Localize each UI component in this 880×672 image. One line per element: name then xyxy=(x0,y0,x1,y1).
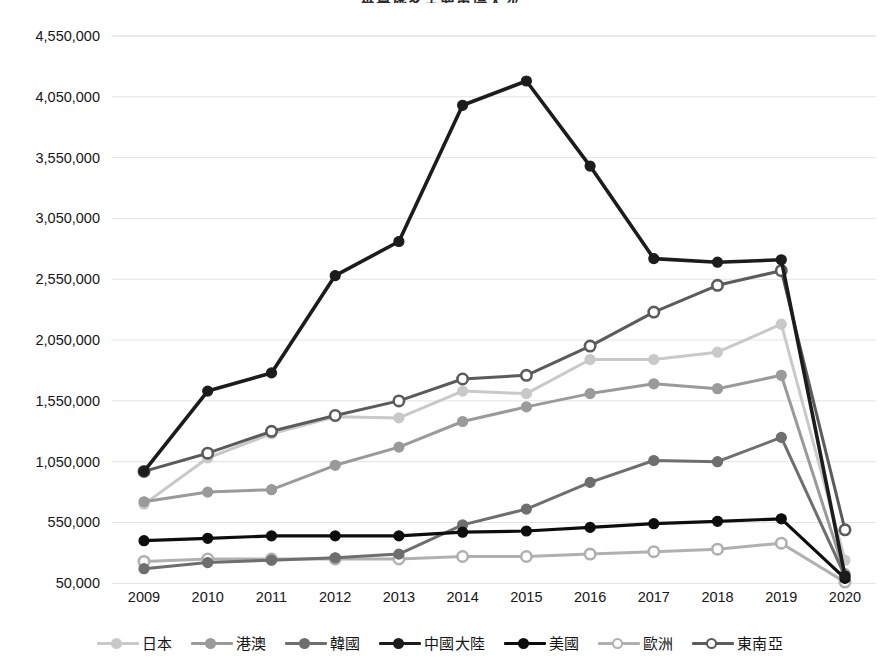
data-point xyxy=(585,477,595,487)
legend-label: 歐洲 xyxy=(643,632,674,653)
data-point xyxy=(713,257,723,267)
data-point xyxy=(330,531,340,541)
x-axis-tick-label: 2010 xyxy=(178,589,238,605)
data-point xyxy=(521,551,531,561)
legend-marker xyxy=(706,638,717,649)
series-line xyxy=(144,375,845,573)
legend-item-6[interactable]: 東南亞 xyxy=(692,632,784,653)
data-point xyxy=(203,558,213,568)
series-4 xyxy=(139,514,850,584)
data-point xyxy=(649,456,659,466)
legend-swatch-icon xyxy=(97,635,139,651)
data-point xyxy=(840,571,850,581)
y-axis-tick-label: 2,550,000 xyxy=(8,271,100,287)
legend-label: 東南亞 xyxy=(737,632,784,653)
x-axis-tick-label: 2019 xyxy=(751,589,811,605)
data-point xyxy=(330,271,340,281)
legend-swatch-icon xyxy=(191,635,233,651)
data-point xyxy=(776,514,786,524)
data-point xyxy=(458,386,468,396)
y-axis-tick-label: 550,000 xyxy=(8,514,100,530)
data-point xyxy=(585,389,595,399)
series-3 xyxy=(139,76,850,581)
data-point xyxy=(394,442,404,452)
data-point xyxy=(649,519,659,529)
data-point xyxy=(521,504,531,514)
data-point xyxy=(713,347,723,357)
data-point xyxy=(394,413,404,423)
data-point xyxy=(776,538,786,548)
x-axis-tick-label: 2009 xyxy=(114,589,174,605)
legend-item-0[interactable]: 日本 xyxy=(97,632,173,653)
legend-swatch-icon xyxy=(504,635,546,651)
legend-swatch-icon xyxy=(379,635,421,651)
legend-marker xyxy=(111,638,122,649)
data-point xyxy=(585,522,595,532)
data-point xyxy=(521,526,531,536)
legend-label: 美國 xyxy=(549,632,580,653)
legend-marker xyxy=(612,638,623,649)
data-point xyxy=(457,374,467,384)
legend-marker xyxy=(393,638,404,649)
data-point xyxy=(394,396,404,406)
y-axis-tick-label: 4,550,000 xyxy=(8,28,100,44)
x-axis-tick-label: 2012 xyxy=(305,589,365,605)
data-point xyxy=(139,564,149,574)
x-axis-tick-label: 2018 xyxy=(688,589,748,605)
x-axis-tick-label: 2020 xyxy=(815,589,875,605)
data-point xyxy=(521,370,531,380)
series-line xyxy=(144,543,845,582)
legend-marker xyxy=(205,638,216,649)
data-point xyxy=(776,319,786,329)
legend-item-5[interactable]: 歐洲 xyxy=(598,632,674,653)
legend-item-2[interactable]: 韓國 xyxy=(285,632,361,653)
legend-marker xyxy=(518,638,529,649)
data-point xyxy=(267,368,277,378)
data-point xyxy=(521,389,531,399)
chart-legend: 日本港澳韓國中國大陸美國歐洲東南亞 xyxy=(0,632,880,653)
data-point xyxy=(394,237,404,247)
series-line xyxy=(144,81,845,576)
data-point xyxy=(267,531,277,541)
data-point xyxy=(713,384,723,394)
legend-item-4[interactable]: 美國 xyxy=(504,632,580,653)
legend-marker xyxy=(299,638,310,649)
data-point xyxy=(649,307,659,317)
data-point xyxy=(457,551,467,561)
data-point xyxy=(713,516,723,526)
data-point xyxy=(521,402,531,412)
y-axis-tick-label: 2,050,000 xyxy=(8,332,100,348)
legend-swatch-icon xyxy=(598,635,640,651)
line-chart: 來臺旅客主要市場人次 50,000550,0001,050,0001,550,0… xyxy=(0,0,880,672)
data-point xyxy=(712,280,722,290)
data-point xyxy=(330,553,340,563)
data-point xyxy=(713,457,723,467)
legend-label: 日本 xyxy=(142,632,173,653)
y-axis-tick-label: 4,050,000 xyxy=(8,89,100,105)
data-point xyxy=(585,161,595,171)
y-axis-tick-label: 1,050,000 xyxy=(8,454,100,470)
data-point xyxy=(585,341,595,351)
legend-label: 港澳 xyxy=(236,632,267,653)
y-axis-tick-label: 1,550,000 xyxy=(8,393,100,409)
legend-item-3[interactable]: 中國大陸 xyxy=(379,632,486,653)
data-point xyxy=(394,531,404,541)
data-point xyxy=(585,549,595,559)
data-point xyxy=(267,485,277,495)
data-point xyxy=(649,379,659,389)
data-point xyxy=(776,370,786,380)
data-point xyxy=(203,533,213,543)
series-0 xyxy=(139,319,850,565)
data-point xyxy=(585,355,595,365)
legend-item-1[interactable]: 港澳 xyxy=(191,632,267,653)
gridlines xyxy=(112,36,876,583)
data-point xyxy=(330,460,340,470)
data-point xyxy=(649,547,659,557)
data-point xyxy=(203,487,213,497)
legend-label: 中國大陸 xyxy=(424,632,486,653)
x-axis-tick-label: 2011 xyxy=(241,589,301,605)
series-6 xyxy=(139,266,850,536)
legend-swatch-icon xyxy=(285,635,327,651)
y-axis-tick-label: 3,050,000 xyxy=(8,210,100,226)
data-point xyxy=(330,410,340,420)
